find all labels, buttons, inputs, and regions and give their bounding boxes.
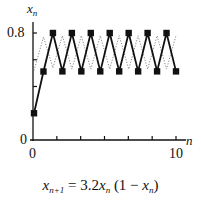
- x-tick-label-10: 10: [169, 147, 183, 161]
- y-axis-sub: n: [33, 8, 38, 18]
- data-point-marker: [154, 68, 160, 74]
- x-origin-label: 0: [29, 147, 36, 161]
- data-point-marker: [59, 68, 65, 74]
- data-point-marker: [31, 110, 37, 116]
- data-point-marker: [88, 30, 94, 36]
- data-point-marker: [135, 68, 141, 74]
- data-point-marker: [97, 68, 103, 74]
- x-axis-label: n: [186, 134, 193, 147]
- data-point-marker: [173, 68, 179, 74]
- data-point-marker: [116, 68, 122, 74]
- data-point-marker: [78, 68, 84, 74]
- caption-eq: = 3.2: [64, 177, 99, 193]
- data-point-marker: [125, 30, 131, 36]
- caption-x: x: [99, 177, 106, 193]
- caption-lhs-sub: n+1: [49, 185, 64, 195]
- square-markers: [31, 30, 179, 117]
- y-origin-label: 0: [20, 133, 27, 147]
- data-point-marker: [163, 30, 169, 36]
- data-point-marker: [107, 30, 113, 36]
- chart-canvas: [0, 0, 201, 202]
- y-axis-label: xn: [27, 2, 37, 18]
- caption-paren-open: (1 −: [110, 177, 142, 193]
- data-point-marker: [40, 68, 46, 74]
- recurrence-caption: xn+1 = 3.2xn (1 − xn): [0, 177, 201, 195]
- data-point-marker: [50, 30, 56, 36]
- y-tick-label-0.8: 0.8: [7, 26, 25, 40]
- data-point-marker: [69, 30, 75, 36]
- caption-x2: x: [142, 177, 149, 193]
- data-point-marker: [144, 30, 150, 36]
- caption-paren-close: ): [154, 177, 159, 193]
